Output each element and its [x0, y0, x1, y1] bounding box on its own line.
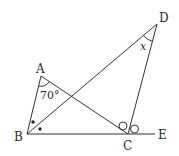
angle-arc-a — [39, 82, 50, 87]
angle-label-a: 70° — [40, 89, 60, 102]
label-e: E — [158, 128, 167, 142]
segment-bd — [27, 24, 157, 134]
angle-mark-circle-2 — [131, 125, 139, 133]
geometry-diagram: A B C D E 70° x — [0, 0, 179, 156]
angle-mark-dot-2 — [38, 127, 41, 130]
angle-mark-circle-1 — [119, 122, 127, 130]
label-d: D — [159, 11, 169, 25]
angle-label-d: x — [140, 40, 147, 53]
angle-mark-dot-1 — [31, 120, 34, 123]
label-b: B — [14, 130, 23, 144]
label-a: A — [35, 62, 45, 76]
segment-ab — [27, 76, 41, 134]
label-c: C — [123, 139, 132, 153]
